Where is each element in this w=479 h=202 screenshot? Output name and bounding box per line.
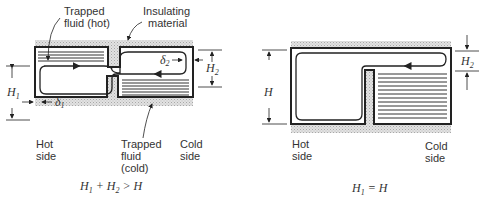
baffle [365, 70, 374, 124]
hot-side-label-1: Hot [292, 138, 309, 150]
right-diagram: H H2 Hot side Cold side H1 = H [262, 35, 479, 197]
insulation-bottom [291, 124, 451, 133]
trapped-cold-label-2: fluid [121, 150, 141, 162]
insulation-top [291, 41, 451, 48]
insulating-pointer [128, 22, 142, 40]
cold-side-label-1: Cold [425, 140, 448, 152]
diagram-canvas: H1 δ1 δ2 H2 Trapped fluid (hot) Insulati… [0, 0, 479, 202]
hot-side-label-1: Hot [36, 138, 53, 150]
hot-side-label-2: side [36, 150, 56, 162]
h2-label: H2 [460, 54, 474, 70]
left-caption: H1 + H2 > H [79, 179, 144, 195]
insulating-label-1: Insulating [143, 5, 190, 17]
insulation-top [35, 40, 193, 47]
trapped-cold-pointer [143, 104, 152, 138]
cold-side-label-2: side [180, 150, 200, 162]
trapped-hot-label-2: fluid (hot) [64, 17, 110, 29]
h-label: H [263, 85, 274, 99]
trapped-cold-label-3: (cold) [121, 162, 149, 174]
right-caption: H1 = H [351, 181, 389, 197]
trapped-cold-label-1: Trapped [121, 138, 162, 150]
cold-fluid-lines [122, 80, 189, 95]
insulating-label-2: material [148, 17, 187, 29]
cold-fluid-lines [378, 74, 447, 118]
h1-label: H1 [6, 85, 20, 101]
cold-side-label-2: side [425, 152, 445, 164]
left-diagram: H1 δ1 δ2 H2 Trapped fluid (hot) Insulati… [6, 5, 222, 195]
trapped-hot-pointer [48, 18, 60, 60]
cold-side-label-1: Cold [180, 138, 203, 150]
h2-label: H2 [205, 61, 219, 77]
hot-side-label-2: side [292, 150, 312, 162]
delta2-label: δ2 [160, 53, 170, 68]
upper-baffle [108, 47, 120, 67]
trapped-hot-label-1: Trapped [64, 5, 105, 17]
